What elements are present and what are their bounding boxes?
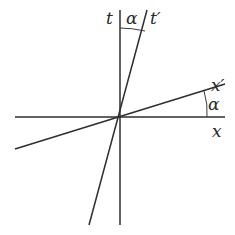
t-prime-axis-label: t′ (150, 8, 161, 28)
x-axis-label: x (212, 121, 222, 141)
alpha-label-top: α (126, 8, 138, 28)
x-prime-axis-label: x′ (211, 75, 225, 95)
spacetime-diagram: t t′ α x′ α x (0, 0, 235, 235)
t-axis-label: t (106, 8, 113, 28)
alpha-label-right: α (208, 94, 220, 114)
alpha-arc-right (204, 91, 207, 117)
